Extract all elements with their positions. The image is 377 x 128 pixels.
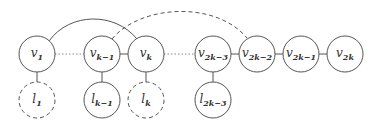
edge-arc-v1-vk	[49, 19, 137, 41]
label-l2k-3: l2k−3	[199, 93, 226, 107]
label-vk: vk	[140, 47, 152, 61]
label-v2k-2: v2k−2	[242, 47, 272, 61]
label-vk-1: vk−1	[90, 47, 115, 61]
graph-edges-and-nodes	[0, 0, 377, 128]
label-lk-1: lk−1	[91, 93, 113, 107]
label-lk: lk	[141, 93, 150, 107]
label-v2k: v2k	[336, 47, 354, 61]
label-l1: l1	[32, 93, 41, 107]
graph-diagram: v1 vk−1 vk v2k−3 v2k−2 v2k−1 v2k l1 lk−1…	[0, 0, 377, 128]
edge-arc-vk-1-v2k-2	[112, 11, 247, 39]
label-v2k-1: v2k−1	[286, 47, 316, 61]
label-v2k-3: v2k−3	[198, 47, 228, 61]
label-v1: v1	[31, 47, 43, 61]
